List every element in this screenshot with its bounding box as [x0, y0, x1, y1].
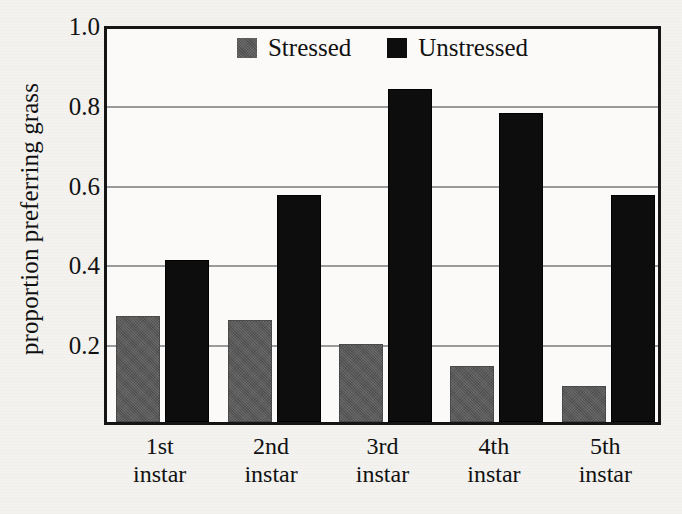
bar-unstressed	[388, 89, 432, 422]
x-tick-label-line2: instar	[438, 460, 549, 488]
x-tick-label-line1: 5th	[550, 432, 661, 460]
bar-group	[218, 29, 329, 422]
x-tick-label: 4thinstar	[438, 432, 549, 489]
bar-stressed	[339, 344, 383, 422]
x-tick-label: 2ndinstar	[215, 432, 326, 489]
bar-group	[553, 29, 664, 422]
bar-unstressed	[277, 195, 321, 422]
x-tick-label: 5thinstar	[550, 432, 661, 489]
x-axis-tick-labels: 1stinstar2ndinstar3rdinstar4thinstar5thi…	[104, 432, 661, 504]
x-tick-label-line1: 1st	[104, 432, 215, 460]
bar-unstressed	[611, 195, 655, 422]
figure-canvas: proportion preferring grass 1.00.80.60.4…	[0, 0, 682, 514]
x-tick-label-line2: instar	[550, 460, 661, 488]
y-tick-label: 1.0	[38, 14, 100, 39]
x-tick-label-line1: 3rd	[327, 432, 438, 460]
plot-area: StressedUnstressed	[104, 26, 661, 425]
bar-group	[330, 29, 441, 422]
x-tick-label-line1: 4th	[438, 432, 549, 460]
y-tick-label: 0.2	[38, 333, 100, 358]
x-tick-label-line2: instar	[104, 460, 215, 488]
bar-group	[441, 29, 552, 422]
bar-unstressed	[165, 260, 209, 422]
bar-stressed	[450, 366, 494, 422]
y-tick-label: 0.8	[38, 93, 100, 118]
x-tick-label-line1: 2nd	[215, 432, 326, 460]
x-tick-label-line2: instar	[215, 460, 326, 488]
x-tick-label: 1stinstar	[104, 432, 215, 489]
bar-groups	[107, 29, 658, 422]
y-axis-tick-labels: 1.00.80.60.40.2	[38, 0, 100, 514]
y-tick-label: 0.4	[38, 253, 100, 278]
bar-unstressed	[499, 113, 543, 422]
bar-stressed	[228, 320, 272, 422]
y-tick-label: 0.6	[38, 173, 100, 198]
x-tick-label-line2: instar	[327, 460, 438, 488]
bar-stressed	[116, 316, 160, 422]
bar-group	[107, 29, 218, 422]
bar-stressed	[562, 386, 606, 422]
x-tick-label: 3rdinstar	[327, 432, 438, 489]
